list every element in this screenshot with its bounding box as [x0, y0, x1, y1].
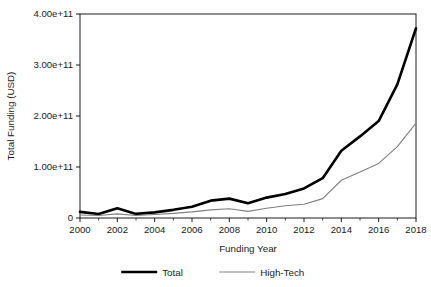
y-tick-label: 3.00e+11 [33, 59, 73, 70]
x-tick-label: 2004 [144, 224, 166, 235]
x-tick-label: 2002 [107, 224, 128, 235]
chart-background [0, 0, 431, 287]
x-tick-label: 2018 [405, 224, 426, 235]
x-tick-label: 2016 [368, 224, 389, 235]
legend-label-high-tech: High-Tech [260, 267, 304, 278]
y-tick-label: 0 [68, 212, 73, 223]
y-tick-label: 2.00e+11 [33, 110, 73, 121]
x-axis-title: Funding Year [219, 243, 277, 254]
x-tick-label: 2010 [256, 224, 277, 235]
x-tick-label: 2008 [219, 224, 240, 235]
x-tick-label: 2000 [69, 224, 90, 235]
chart-canvas: 01.00e+112.00e+113.00e+114.00e+11 200020… [0, 0, 431, 287]
x-tick-label: 2006 [181, 224, 202, 235]
y-tick-label: 4.00e+11 [33, 8, 73, 19]
x-tick-label: 2012 [293, 224, 314, 235]
legend-label-total: Total [162, 267, 183, 278]
x-tick-label: 2014 [331, 224, 353, 235]
y-axis-title: Total Funding (USD) [5, 72, 16, 161]
chart-figure: 01.00e+112.00e+113.00e+114.00e+11 200020… [0, 0, 431, 287]
y-tick-label: 1.00e+11 [33, 161, 73, 172]
